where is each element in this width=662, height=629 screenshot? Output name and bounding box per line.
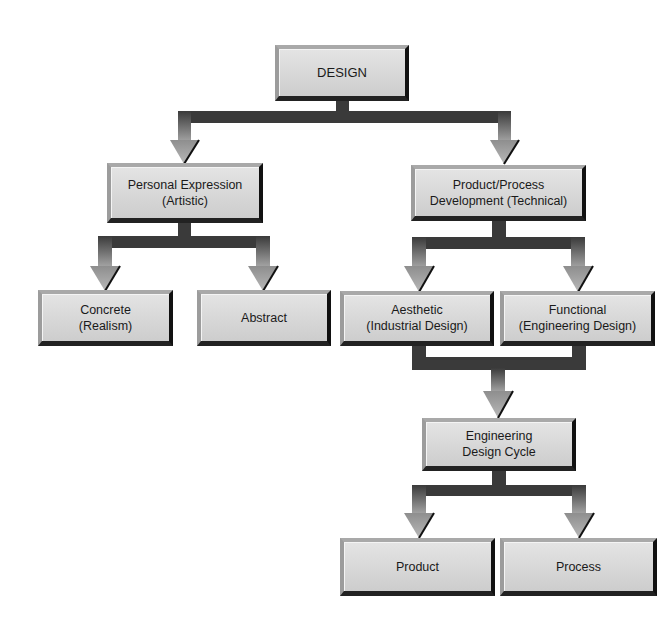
node-aesthetic: Aesthetic (Industrial Design) <box>340 291 494 346</box>
node-personal-expression: Personal Expression (Artistic) <box>107 163 263 223</box>
node-concrete-line2: (Realism) <box>79 318 132 334</box>
node-product-process-line1: Product/Process <box>430 177 568 193</box>
node-engineering-design-cycle: Engineering Design Cycle <box>422 418 576 471</box>
node-engineering-line2: Design Cycle <box>462 444 536 460</box>
node-product-process-development: Product/Process Development (Technical) <box>411 165 586 221</box>
node-design-label: DESIGN <box>317 65 367 81</box>
node-concrete: Concrete (Realism) <box>38 290 173 346</box>
connector-technical-to-level3 <box>404 219 593 292</box>
node-design: DESIGN <box>275 45 409 101</box>
node-personal-expression-line2: (Artistic) <box>128 193 243 209</box>
node-personal-expression-line1: Personal Expression <box>128 177 243 193</box>
node-product: Product <box>340 538 495 596</box>
node-concrete-line1: Concrete <box>79 302 132 318</box>
connector-merge-to-engineering <box>412 344 586 418</box>
node-functional: Functional (Engineering Design) <box>500 291 655 346</box>
node-engineering-line1: Engineering <box>462 428 536 444</box>
node-product-process-line2: Development (Technical) <box>430 193 568 209</box>
connector-personal-to-level3 <box>90 221 278 291</box>
node-abstract-label: Abstract <box>241 310 287 326</box>
node-functional-line1: Functional <box>519 302 636 318</box>
connector-engineering-to-outputs <box>404 469 594 538</box>
node-abstract: Abstract <box>197 290 331 346</box>
node-aesthetic-line2: (Industrial Design) <box>366 318 467 334</box>
node-process: Process <box>500 538 657 596</box>
node-process-label: Process <box>556 559 601 575</box>
node-product-label: Product <box>396 559 439 575</box>
connector-design-to-level2 <box>170 99 519 164</box>
design-hierarchy-diagram: DESIGN Personal Expression (Artistic) Pr… <box>0 0 662 629</box>
node-functional-line2: (Engineering Design) <box>519 318 636 334</box>
node-aesthetic-line1: Aesthetic <box>366 302 467 318</box>
